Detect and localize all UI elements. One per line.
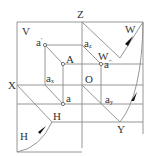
w-rotation-arc (120, 22, 143, 122)
label-x-axis: X (8, 79, 16, 91)
point-A (61, 62, 64, 65)
label-a: a (66, 92, 71, 104)
label-origin: O (85, 73, 93, 85)
proj-ax-a (45, 85, 63, 104)
projection-diagram: V Z W a' az A W a" X ax O a ay H H Y (0, 0, 154, 156)
point-a-prime (43, 43, 46, 46)
proj-aprime-A (45, 45, 63, 64)
label-h-plane-inner: H (53, 110, 61, 122)
label-w-plane-top: W (125, 23, 136, 35)
label-h-plane-bottom: H (20, 130, 28, 142)
label-a-prime: a' (36, 36, 42, 48)
label-a-x: ax (46, 72, 54, 84)
h-plane-edge (17, 85, 52, 122)
point-a-double-prime (99, 62, 102, 65)
label-a-y: ay (105, 93, 113, 105)
h-arrow-icon (38, 126, 46, 134)
point-a (61, 102, 64, 105)
label-a-double-prime: a" (104, 58, 112, 70)
label-v-plane: V (22, 25, 30, 37)
label-a-z: az (84, 37, 92, 49)
label-y-axis: Y (117, 123, 125, 135)
label-z-axis: Z (77, 8, 84, 20)
label-A: A (66, 53, 74, 65)
